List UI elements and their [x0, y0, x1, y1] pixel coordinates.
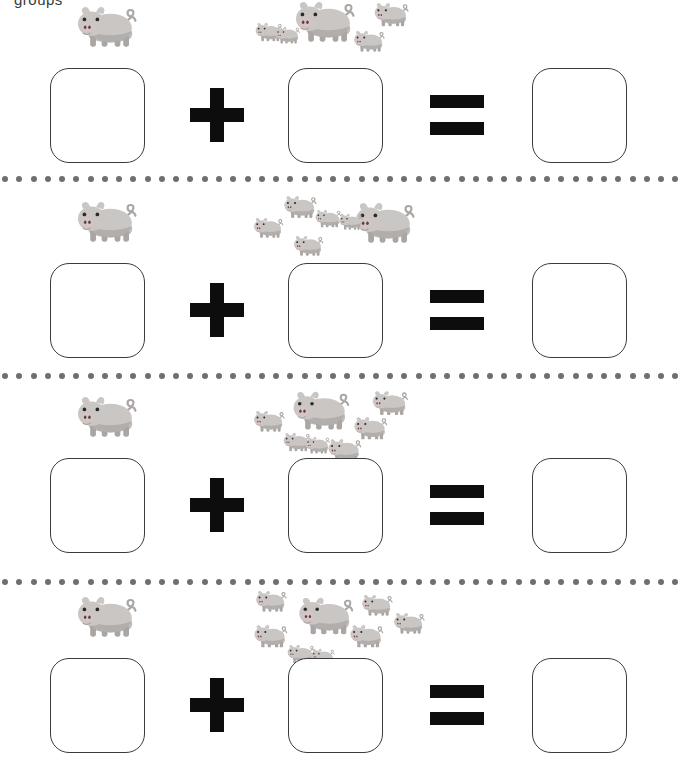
dot-icon — [615, 176, 621, 182]
dot-icon — [173, 579, 179, 585]
right-addend-answer-box[interactable] — [288, 458, 383, 553]
dot-icon — [88, 176, 94, 182]
dot-icon — [558, 176, 564, 182]
dot-icon — [430, 579, 436, 585]
equals-icon — [430, 685, 484, 725]
dot-icon — [102, 373, 108, 379]
dot-icon — [344, 579, 350, 585]
dot-icon — [187, 176, 193, 182]
plus-icon — [190, 678, 244, 732]
dot-icon — [202, 373, 208, 379]
dot-icon — [587, 579, 593, 585]
dot-icon — [45, 373, 51, 379]
dot-icon — [330, 373, 336, 379]
dot-icon — [31, 373, 37, 379]
sum-answer-box[interactable] — [532, 68, 627, 163]
dot-icon — [16, 373, 22, 379]
dot-icon — [73, 176, 79, 182]
dot-icon — [630, 176, 636, 182]
dot-icon — [359, 579, 365, 585]
dot-icon — [373, 373, 379, 379]
sum-answer-box[interactable] — [532, 458, 627, 553]
dot-icon — [2, 579, 8, 585]
dot-icon — [31, 176, 37, 182]
dot-icon — [487, 579, 493, 585]
pig-icon — [252, 590, 289, 614]
dot-icon — [658, 176, 664, 182]
dot-icon — [2, 176, 8, 182]
dot-icon — [259, 579, 265, 585]
dot-icon — [416, 176, 422, 182]
dot-icon — [587, 176, 593, 182]
right-addend-answer-box[interactable] — [288, 658, 383, 753]
plus-icon — [190, 283, 244, 337]
left-addend-answer-box[interactable] — [50, 68, 145, 163]
dot-icon — [173, 373, 179, 379]
dot-icon — [459, 373, 465, 379]
dot-icon — [73, 373, 79, 379]
dot-icon — [430, 373, 436, 379]
dot-icon — [530, 579, 536, 585]
pig-icon — [70, 5, 142, 51]
dot-icon — [302, 373, 308, 379]
dot-icon — [202, 176, 208, 182]
dot-icon — [245, 176, 251, 182]
dot-icon — [287, 176, 293, 182]
dot-icon — [73, 579, 79, 585]
dot-icon — [330, 579, 336, 585]
dot-icon — [601, 373, 607, 379]
dot-icon — [130, 176, 136, 182]
pig-icon — [370, 2, 412, 29]
dot-icon — [302, 176, 308, 182]
dot-icon — [401, 176, 407, 182]
plus-icon — [190, 88, 244, 142]
dot-icon — [88, 373, 94, 379]
dot-icon — [2, 373, 8, 379]
left-addend-answer-box[interactable] — [50, 263, 145, 358]
dot-icon — [672, 373, 678, 379]
dot-icon — [116, 373, 122, 379]
dot-icon — [587, 373, 593, 379]
dot-icon — [316, 176, 322, 182]
sum-answer-box[interactable] — [532, 658, 627, 753]
dot-icon — [273, 579, 279, 585]
dot-icon — [501, 579, 507, 585]
left-addend-answer-box[interactable] — [50, 458, 145, 553]
pig-icon — [70, 395, 142, 441]
pig-icon — [70, 595, 142, 641]
dot-icon — [230, 373, 236, 379]
sum-answer-box[interactable] — [532, 263, 627, 358]
pig-icon — [336, 213, 365, 231]
dot-icon — [516, 373, 522, 379]
dot-icon — [473, 579, 479, 585]
dot-icon — [558, 373, 564, 379]
dot-icon — [330, 176, 336, 182]
dot-icon — [416, 579, 422, 585]
dot-icon — [16, 176, 22, 182]
right-addend-answer-box[interactable] — [288, 68, 383, 163]
dot-icon — [145, 579, 151, 585]
dot-icon — [630, 373, 636, 379]
dot-icon — [387, 176, 393, 182]
right-addend-answer-box[interactable] — [288, 263, 383, 358]
dot-icon — [644, 579, 650, 585]
dot-icon — [159, 579, 165, 585]
dot-icon — [344, 373, 350, 379]
left-pig-group — [50, 395, 150, 457]
dot-icon — [259, 176, 265, 182]
dot-icon — [302, 579, 308, 585]
dot-icon — [558, 579, 564, 585]
left-pig-group — [50, 200, 150, 262]
dot-icon — [159, 176, 165, 182]
dot-icon — [230, 176, 236, 182]
dot-icon — [316, 579, 322, 585]
dot-icon — [401, 373, 407, 379]
left-addend-answer-box[interactable] — [50, 658, 145, 753]
dot-icon — [102, 176, 108, 182]
dot-icon — [644, 373, 650, 379]
dotted-divider — [0, 578, 681, 585]
dot-icon — [216, 579, 222, 585]
dot-icon — [16, 579, 22, 585]
dot-icon — [45, 176, 51, 182]
dot-icon — [644, 176, 650, 182]
